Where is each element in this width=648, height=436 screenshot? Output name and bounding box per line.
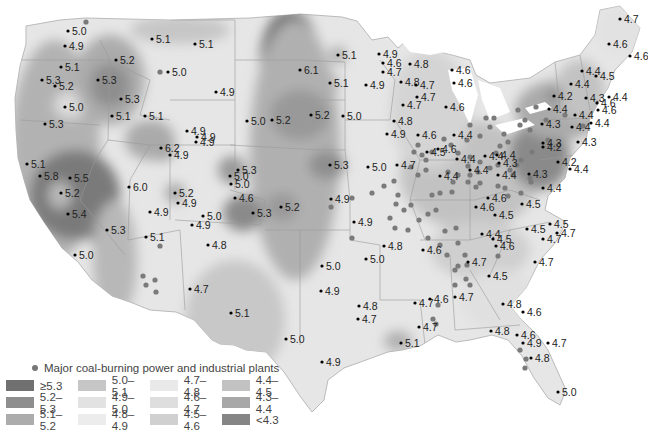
coal-plant-marker-icon	[491, 115, 496, 120]
station-dot-icon	[401, 103, 404, 106]
ph-value-label: 4.9	[370, 79, 385, 91]
station-dot-icon	[450, 68, 453, 71]
ph-value-label: 4.4	[547, 182, 562, 194]
station-dot-icon	[168, 153, 171, 156]
station-dot-icon	[356, 317, 359, 320]
station-dot-icon	[159, 146, 162, 149]
ph-value-label: 4.4	[579, 109, 594, 121]
ph-value-label: 5.1	[334, 77, 349, 89]
station-dot-icon	[515, 333, 518, 336]
ph-value-label: 5.2	[285, 201, 300, 213]
station-dot-icon	[399, 341, 402, 344]
coal-plant-marker-icon	[369, 190, 374, 195]
coal-plant-marker-icon	[452, 267, 457, 272]
coal-plant-marker-icon	[522, 117, 527, 122]
ph-value-label: 5.1	[65, 61, 80, 73]
station-dot-icon	[414, 83, 417, 86]
station-dot-icon	[194, 140, 197, 143]
ph-value-label: 5.5	[74, 172, 89, 184]
coal-plant-marker-icon	[392, 225, 397, 230]
station-dot-icon	[552, 94, 555, 97]
legend-swatch	[78, 414, 106, 425]
ph-value-label: 4.6	[634, 50, 648, 62]
ph-value-label: 4.5	[499, 209, 514, 221]
station-dot-icon	[309, 113, 312, 116]
station-dot-icon	[421, 248, 424, 251]
station-dot-icon	[25, 162, 28, 165]
station-dot-icon	[392, 119, 395, 122]
coal-plant-marker-icon	[395, 192, 400, 197]
ph-value-label: 4.7	[362, 313, 377, 325]
ph-value-label: 4.6	[450, 101, 465, 113]
ph-value-label: 5.1	[235, 307, 250, 319]
station-dot-icon	[251, 211, 254, 214]
coal-plant-marker-icon	[465, 179, 470, 184]
station-dot-icon	[628, 54, 631, 57]
legend-item-label: <4.3	[256, 414, 279, 426]
legend-swatch	[150, 414, 178, 425]
coal-plant-marker-icon	[517, 122, 522, 127]
legend-item: 4.3–4.4	[222, 396, 294, 409]
ph-value-label: 4.4	[575, 78, 590, 90]
legend-swatch	[78, 397, 106, 408]
station-dot-icon	[541, 186, 544, 189]
ph-value-label: 5.0	[370, 253, 385, 265]
station-dot-icon	[150, 37, 153, 40]
station-dot-icon	[408, 62, 411, 65]
station-dot-icon	[284, 337, 287, 340]
ph-value-label: 5.0	[562, 386, 577, 398]
station-dot-icon	[497, 161, 500, 164]
ph-value-label: 4.7	[547, 233, 562, 245]
station-dot-icon	[556, 390, 559, 393]
ph-value-label: 5.3	[125, 93, 140, 105]
station-dot-icon	[425, 150, 428, 153]
ph-value-label: 4.6	[456, 64, 471, 76]
station-dot-icon	[143, 114, 146, 117]
station-dot-icon	[529, 356, 532, 359]
station-dot-icon	[357, 304, 360, 307]
station-dot-icon	[466, 260, 469, 263]
ph-value-label: 4.9	[527, 337, 542, 349]
ph-value-label: 4.9	[154, 206, 169, 218]
ph-value-label: 4.4	[458, 129, 473, 141]
coal-plant-marker-icon	[502, 185, 507, 190]
coal-plant-marker-icon	[349, 235, 354, 240]
ph-value-label: 5.4	[72, 208, 87, 220]
ph-value-label: 4.8	[535, 352, 550, 364]
ph-value-label: 4.6	[458, 77, 473, 89]
ph-value-label: 4.6	[239, 192, 254, 204]
station-dot-icon	[569, 82, 572, 85]
station-dot-icon	[556, 160, 559, 163]
coal-plant-marker-icon	[495, 183, 500, 188]
legend-swatch	[6, 414, 34, 425]
ph-value-label: 6.1	[304, 64, 319, 76]
legend-item: 5.1–5.2	[6, 413, 78, 426]
station-dot-icon	[96, 78, 99, 81]
station-dot-icon	[105, 228, 108, 231]
ph-value-label: 4.4	[574, 163, 589, 175]
coal-plant-marker-icon	[501, 131, 506, 136]
ph-value-label: 5.1	[405, 337, 420, 349]
ph-value-label: 4.9	[200, 136, 215, 148]
coal-plant-marker-icon	[463, 276, 468, 281]
station-dot-icon	[59, 65, 62, 68]
coal-plant-marker-icon	[477, 180, 482, 185]
station-dot-icon	[548, 222, 551, 225]
station-dot-icon	[279, 205, 282, 208]
station-dot-icon	[233, 196, 236, 199]
ph-value-label: 4.9	[196, 219, 211, 231]
station-dot-icon	[541, 145, 544, 148]
ph-value-label: 4.9	[358, 216, 373, 228]
ph-value-label: 4.7	[421, 91, 436, 103]
station-dot-icon	[53, 84, 56, 87]
coal-plant-marker-icon	[152, 277, 157, 282]
ph-value-label: 4.8	[212, 239, 227, 251]
station-dot-icon	[541, 141, 544, 144]
station-dot-icon	[190, 223, 193, 226]
legend-swatch	[222, 380, 250, 391]
legend-swatch	[150, 397, 178, 408]
ph-value-label: 4.8	[495, 325, 510, 337]
ph-value-label: 5.1	[342, 49, 357, 61]
ph-value-label: 5.1	[31, 158, 46, 170]
coal-plant-marker-icon	[515, 107, 520, 112]
